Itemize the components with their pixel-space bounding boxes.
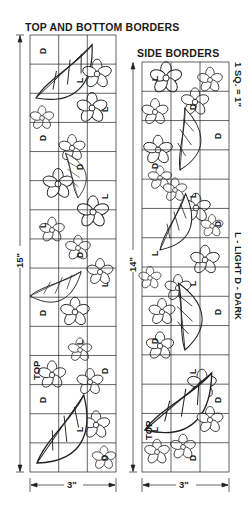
dark-marker: D [100, 455, 110, 461]
light-marker: L [100, 194, 110, 199]
width-dimension-right: 3" [179, 479, 189, 490]
dark-marker: D [213, 397, 223, 403]
dark-marker: D [75, 251, 85, 257]
dark-marker: D [213, 221, 223, 227]
dark-marker: D [188, 104, 198, 110]
height-dimension-14: 14" [127, 257, 138, 272]
light-marker: L [75, 340, 85, 345]
light-marker: L [75, 77, 85, 82]
light-marker: L [150, 427, 160, 432]
top-label-left: TOP [31, 361, 42, 380]
light-marker: L [75, 427, 85, 432]
dark-marker: D [75, 164, 85, 170]
dark-marker: D [188, 455, 198, 461]
dark-marker: D [213, 133, 223, 139]
dark-marker: D [38, 47, 48, 53]
scale-note: 1 SQ. = 1" [233, 62, 244, 107]
dark-marker: D [213, 309, 223, 315]
dark-marker: D [150, 162, 160, 168]
light-marker: L [188, 193, 198, 198]
dark-marker: D [38, 135, 48, 141]
dark-marker: D [100, 368, 110, 374]
dark-marker: D [150, 338, 160, 344]
light-marker: L [38, 223, 48, 228]
height-dimension-15: 15" [14, 253, 25, 268]
light-marker: L [150, 251, 160, 256]
light-marker: L [188, 280, 198, 285]
light-marker: L [100, 281, 110, 286]
top-bottom-border-panel [16, 35, 117, 492]
light-marker: L [150, 75, 160, 80]
light-marker: L [100, 107, 110, 112]
light-marker: L [188, 368, 198, 373]
quilt-pattern-diagram [0, 0, 250, 514]
dark-marker: D [38, 310, 48, 316]
light-dark-legend: L - LIGHT D - DARK [233, 232, 244, 320]
width-dimension-left: 3" [67, 479, 77, 490]
dark-marker: D [38, 397, 48, 403]
